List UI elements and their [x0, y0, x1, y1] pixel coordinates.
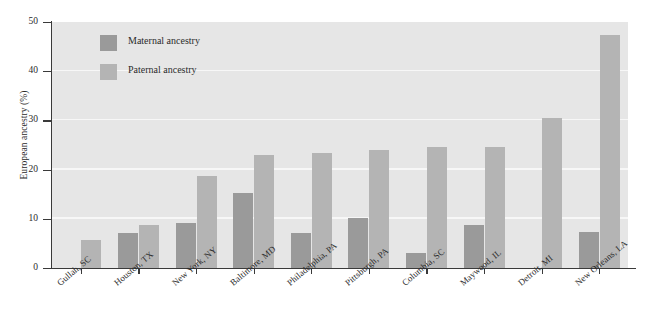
y-tick-label: 50: [4, 16, 38, 26]
y-tick: [43, 268, 51, 269]
y-tick-label: 30: [4, 114, 38, 124]
y-tick: [43, 22, 51, 23]
y-tick-label: 10: [4, 213, 38, 223]
bar-maternal: [233, 193, 253, 268]
y-tick: [43, 120, 51, 121]
y-tick: [43, 170, 51, 171]
chart-figure: European ancestry (%) 01020304050 Gullah…: [0, 0, 650, 332]
legend-label-maternal: Maternal ancestry: [128, 35, 200, 46]
y-axis-line: [51, 21, 52, 269]
legend-swatch-maternal-icon: [100, 35, 117, 51]
bar-paternal: [600, 35, 620, 268]
y-tick-label: 20: [4, 164, 38, 174]
plot-area: [52, 22, 628, 268]
y-tick-label: 40: [4, 65, 38, 75]
y-tick-label: 0: [4, 262, 38, 272]
legend-swatch-paternal-icon: [100, 64, 117, 80]
y-tick: [43, 71, 51, 72]
y-tick: [43, 219, 51, 220]
bar-paternal: [542, 118, 562, 268]
legend-label-paternal: Paternal ancestry: [128, 64, 197, 75]
